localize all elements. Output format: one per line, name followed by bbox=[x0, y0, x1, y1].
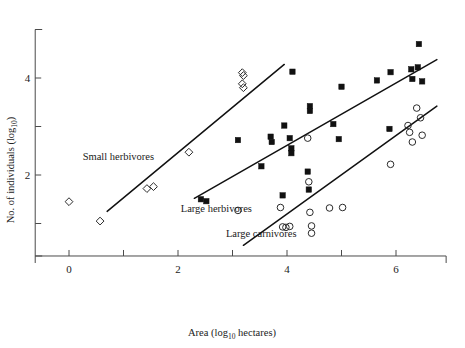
x-axis-tick-labels: 0246 bbox=[66, 263, 399, 275]
marker-open-circle bbox=[307, 209, 314, 216]
marker-open-circle bbox=[387, 161, 394, 168]
marker-filled-square bbox=[198, 197, 203, 202]
marker-open-circle bbox=[277, 204, 284, 211]
regression-line bbox=[194, 60, 437, 199]
marker-open-circle bbox=[409, 139, 416, 146]
y-axis-tick-labels: 24 bbox=[25, 72, 31, 181]
series-large-carnivores bbox=[235, 105, 426, 237]
series-label-small-herbivores: Small herbivores bbox=[83, 151, 154, 162]
marker-filled-square bbox=[339, 84, 344, 89]
marker-open-circle bbox=[339, 204, 346, 211]
scatter-plot-figure: 24 0246 Small herbivoresLarge herbivores… bbox=[0, 0, 465, 348]
y-tick-label: 4 bbox=[25, 72, 31, 84]
marker-filled-square bbox=[419, 79, 424, 84]
marker-open-diamond bbox=[238, 80, 246, 88]
marker-filled-square bbox=[269, 139, 274, 144]
marker-filled-square bbox=[409, 67, 414, 72]
marker-open-circle bbox=[406, 129, 413, 136]
marker-filled-square bbox=[289, 150, 294, 155]
regression-line bbox=[243, 106, 436, 245]
marker-filled-square bbox=[388, 69, 393, 74]
x-axis-line bbox=[35, 256, 446, 263]
marker-filled-square bbox=[305, 169, 310, 174]
marker-open-diamond bbox=[65, 198, 73, 206]
marker-filled-square bbox=[336, 136, 341, 141]
series-label-large-herbivores: Large herbivores bbox=[181, 203, 252, 214]
y-tick-label: 2 bbox=[25, 169, 31, 181]
marker-filled-square bbox=[290, 69, 295, 74]
marker-filled-square bbox=[416, 41, 421, 46]
x-tick-label: 2 bbox=[175, 263, 181, 275]
marker-filled-square bbox=[415, 65, 420, 70]
y-axis-title: No. of individuals (log10) bbox=[5, 116, 19, 223]
series-annotations-group: Small herbivoresLarge herbivoresLarge ca… bbox=[83, 151, 297, 239]
marker-open-circle bbox=[326, 205, 333, 212]
marker-filled-square bbox=[374, 78, 379, 83]
marker-open-circle bbox=[413, 105, 420, 112]
plot-svg: 24 0246 Small herbivoresLarge herbivores… bbox=[0, 0, 465, 348]
marker-open-circle bbox=[304, 135, 311, 142]
marker-open-circle bbox=[308, 230, 315, 237]
marker-filled-square bbox=[287, 135, 292, 140]
marker-filled-square bbox=[387, 126, 392, 131]
regression-line bbox=[107, 64, 284, 211]
marker-filled-square bbox=[307, 108, 312, 113]
x-tick-label: 4 bbox=[284, 263, 290, 275]
marker-open-circle bbox=[306, 178, 313, 185]
marker-open-diamond bbox=[185, 148, 193, 156]
x-axis-title: Area (log10 hectares) bbox=[188, 327, 276, 341]
x-tick-label: 0 bbox=[66, 263, 72, 275]
x-axis-ticks bbox=[69, 250, 396, 256]
marker-filled-square bbox=[410, 76, 415, 81]
x-tick-label: 6 bbox=[393, 263, 399, 275]
marker-filled-square bbox=[282, 123, 287, 128]
marker-open-circle bbox=[308, 223, 315, 230]
marker-filled-square bbox=[280, 193, 285, 198]
marker-filled-square bbox=[306, 187, 311, 192]
marker-open-circle bbox=[419, 132, 426, 139]
regression-lines-group bbox=[107, 60, 437, 246]
marker-filled-square bbox=[331, 121, 336, 126]
marker-open-diamond bbox=[96, 217, 104, 225]
marker-filled-square bbox=[259, 164, 264, 169]
marker-filled-square bbox=[289, 146, 294, 151]
marker-filled-square bbox=[268, 134, 273, 139]
marker-filled-square bbox=[235, 137, 240, 142]
series-small-herbivores bbox=[65, 69, 247, 225]
y-axis-line bbox=[35, 30, 42, 256]
marker-open-diamond bbox=[240, 84, 248, 92]
marker-filled-square bbox=[307, 103, 312, 108]
series-label-large-carnivores: Large carnivores bbox=[226, 228, 297, 239]
y-axis-ticks bbox=[35, 30, 41, 224]
